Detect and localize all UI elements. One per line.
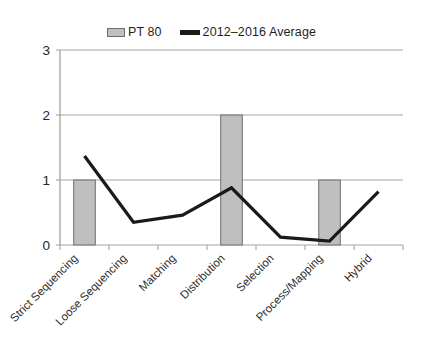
x-axis-ticks <box>60 245 403 250</box>
x-axis-category-label: Distribution <box>178 252 227 301</box>
bar <box>221 115 243 245</box>
chart-plot-area: 0123 Strict SequencingLoose SequencingMa… <box>0 0 423 348</box>
category-labels-group: Strict SequencingLoose SequencingMatchin… <box>8 252 374 328</box>
bar <box>74 180 96 245</box>
y-axis-tick-labels: 0123 <box>42 43 60 253</box>
x-axis-category-label: Hybrid <box>342 252 374 284</box>
x-axis-category-label: Matching <box>136 252 177 293</box>
y-axis-tick-label: 1 <box>42 173 50 188</box>
y-axis-tick-label: 0 <box>42 238 50 253</box>
chart-container: PT 80 2012–2016 Average 0123 Strict Sequ… <box>0 0 423 348</box>
x-axis-category-label: Selection <box>234 252 276 294</box>
y-axis-tick-label: 3 <box>42 43 50 58</box>
y-axis-tick-label: 2 <box>42 108 50 123</box>
